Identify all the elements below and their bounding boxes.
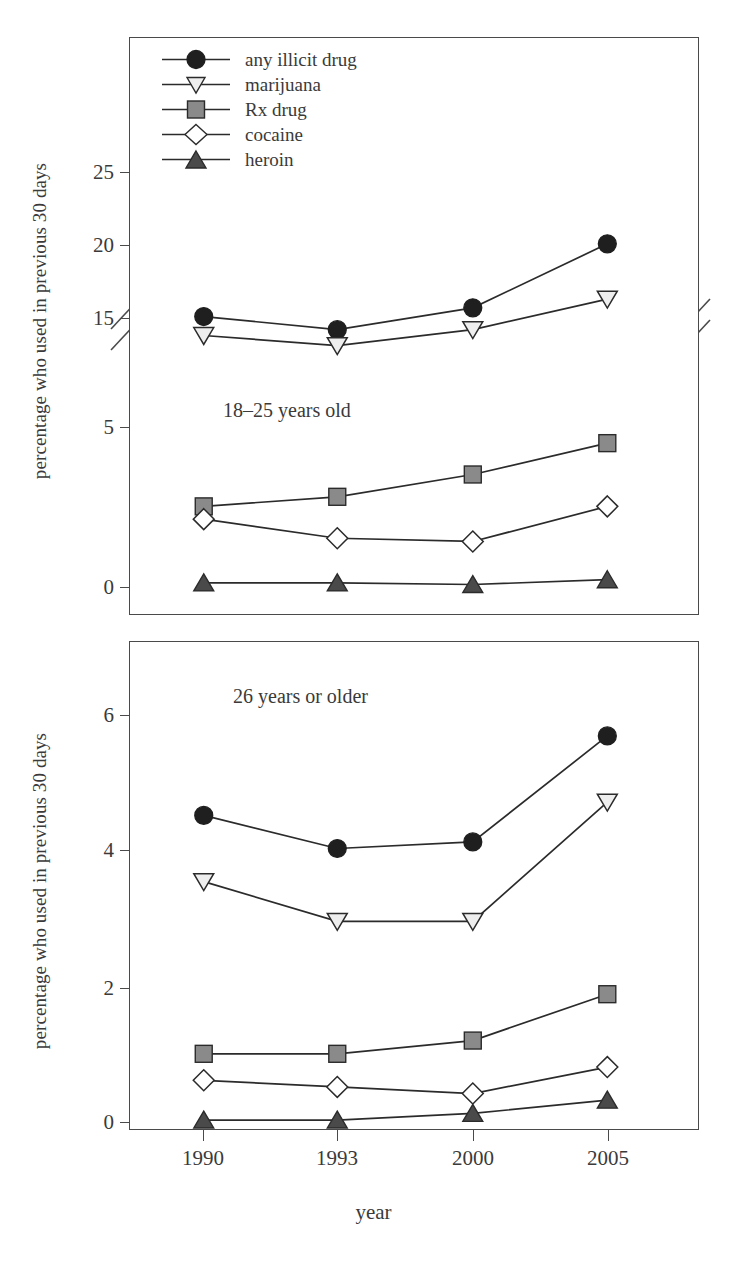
x-tick-mark-1990 [203,1130,204,1141]
y-tick-mark-bottom-2 [120,988,129,989]
y-tick-mark-top-5 [120,427,129,428]
panel-26-plus [129,641,699,1130]
legend-item-heroin: heroin [160,147,357,172]
legend-label-any-illicit-drug: any illicit drug [245,49,357,71]
square-marker-icon [160,97,232,122]
y-tick-mark-bottom-4 [120,850,129,851]
y-axis-label-bottom: percentage who used in previous 30 days [29,681,51,1101]
legend-item-rx-drug: Rx drug [160,97,357,122]
x-tick-mark-1993 [337,1130,338,1141]
x-tick-label-2005: 2005 [587,1146,629,1171]
panel-annotation-18-25: 18–25 years old [223,399,351,422]
diamond-marker-icon [160,122,232,147]
x-tick-label-1990: 1990 [182,1146,224,1171]
y-tick-mark-bottom-0 [120,1122,129,1123]
legend-label-rx-drug: Rx drug [245,99,307,121]
y-tick-mark-bottom-6 [120,715,129,716]
y-tick-mark-top-0 [120,587,129,588]
y-tick-mark-top-25 [120,172,129,173]
x-tick-mark-2000 [473,1130,474,1141]
down-triangle-marker-icon [160,72,232,97]
legend-item-marijuana: marijuana [160,72,357,97]
x-tick-label-1993: 1993 [316,1146,358,1171]
y-tick-label-top-5: 5 [72,415,114,440]
legend-item-cocaine: cocaine [160,122,357,147]
y-tick-mark-top-20 [120,245,129,246]
legend-label-marijuana: marijuana [245,74,321,96]
y-axis-label-top: percentage who used in previous 30 days [29,111,51,531]
y-tick-label-bottom-4: 4 [72,838,114,863]
plot-area-bottom [130,642,698,1129]
chart-legend: any illicit drug marijuana Rx drug cocai… [160,47,357,172]
up-triangle-marker-icon [160,147,232,172]
legend-label-cocaine: cocaine [245,124,303,146]
drug-use-line-chart: percentage who used in previous 30 days … [0,0,747,1277]
panel-annotation-26-plus: 26 years or older [233,685,368,708]
y-tick-label-top-20: 20 [72,233,114,258]
y-tick-label-bottom-0: 0 [72,1110,114,1135]
x-tick-label-2000: 2000 [452,1146,494,1171]
x-tick-mark-2005 [608,1130,609,1141]
y-tick-label-top-25: 25 [72,160,114,185]
x-axis-label: year [0,1200,747,1225]
circle-marker-icon [160,47,232,72]
y-tick-label-bottom-6: 6 [72,703,114,728]
y-tick-label-bottom-2: 2 [72,976,114,1001]
legend-label-heroin: heroin [245,149,294,171]
y-tick-label-top-0: 0 [72,575,114,600]
legend-item-any-illicit-drug: any illicit drug [160,47,357,72]
